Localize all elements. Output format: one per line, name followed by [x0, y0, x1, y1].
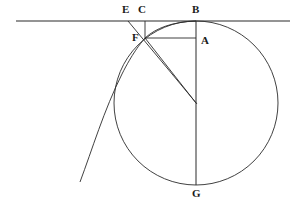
point-label-g: G: [192, 188, 201, 199]
point-label-e: E: [122, 4, 129, 15]
geometry-figure: E C B F A G: [0, 0, 290, 211]
point-label-f: F: [132, 32, 139, 43]
figure-canvas: [0, 0, 290, 211]
point-label-c: C: [138, 4, 146, 15]
point-label-a: A: [201, 35, 209, 46]
point-label-b: B: [192, 4, 199, 15]
